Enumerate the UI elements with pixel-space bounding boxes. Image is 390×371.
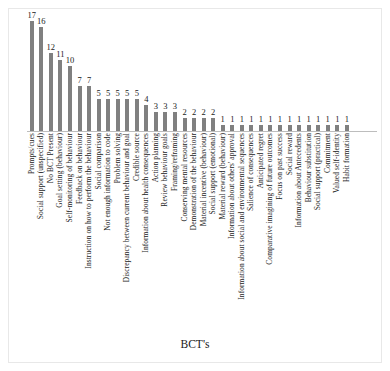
bar-item: 2 xyxy=(199,14,209,131)
x-tick-label: Social support (practical) xyxy=(314,133,322,210)
x-tick-label: Credible source xyxy=(133,133,141,181)
x-tick-label: Anticipated regret xyxy=(257,133,265,188)
bar-item: 7 xyxy=(75,14,85,131)
x-tick-slot: Valued self-identity xyxy=(333,133,343,323)
bar-value-label: 17 xyxy=(27,11,37,20)
bar-item: 1 xyxy=(285,14,295,131)
bar-rect xyxy=(173,112,177,132)
bar-value-label: 4 xyxy=(142,95,152,104)
bar-item: 1 xyxy=(323,14,333,131)
bar-item: 1 xyxy=(266,14,276,131)
bar-value-label: 1 xyxy=(313,115,323,124)
x-tick-label: Action planning xyxy=(152,133,160,182)
x-tick-label: Framing/reframing xyxy=(171,133,179,191)
bar-item: 1 xyxy=(313,14,323,131)
bar-value-label: 1 xyxy=(275,115,285,124)
bar-rect xyxy=(163,112,167,132)
bar-value-label: 1 xyxy=(227,115,237,124)
bar-item: 3 xyxy=(161,14,171,131)
x-tick-label: Not enough information to code xyxy=(104,133,112,231)
bar-value-label: 1 xyxy=(333,115,343,124)
bar-rect xyxy=(125,99,129,132)
x-tick-label: Information about others' approval xyxy=(228,133,236,239)
bar-value-label: 2 xyxy=(180,108,190,117)
bar-item: 2 xyxy=(208,14,218,131)
bar-rect xyxy=(58,60,62,132)
bar-value-label: 5 xyxy=(94,89,104,98)
bar-value-label: 1 xyxy=(323,115,333,124)
bar-value-label: 10 xyxy=(65,56,75,65)
bar-item: 5 xyxy=(103,14,113,131)
bar-rect xyxy=(144,105,148,131)
x-tick-slot: Focus on past success xyxy=(275,133,285,323)
bar-rect xyxy=(183,118,187,131)
bar-value-label: 11 xyxy=(56,50,66,59)
x-tick-label: Social comparison xyxy=(95,133,103,190)
bar-chart-figure: Frequency 171612111077555554333222211111… xyxy=(0,0,390,371)
bar-rect xyxy=(78,86,82,132)
x-tick-label: Behaviour substitution xyxy=(305,133,313,202)
bar-item: 1 xyxy=(227,14,237,131)
x-tick-label: Commitment xyxy=(324,133,332,173)
x-tick-slot: Information about Antecedents xyxy=(294,133,304,323)
bar-item: 3 xyxy=(151,14,161,131)
bar-item: 16 xyxy=(37,14,47,131)
bar-value-label: 1 xyxy=(237,115,247,124)
x-tick-label: Goal setting (behaviour) xyxy=(56,133,64,208)
bar-value-label: 3 xyxy=(170,102,180,111)
x-tick-label: Social reward xyxy=(286,133,294,175)
x-tick-label: Comparative imagining of future outcomes xyxy=(266,133,274,265)
bar-item: 1 xyxy=(275,14,285,131)
x-axis-title: BCT's xyxy=(0,338,390,350)
x-tick-slot: Not enough information to code xyxy=(103,133,113,323)
bar-item: 10 xyxy=(65,14,75,131)
bar-item: 11 xyxy=(56,14,66,131)
bar-rect xyxy=(192,118,196,131)
x-tick-slot: Review behaviour goals xyxy=(161,133,171,323)
bar-item: 5 xyxy=(122,14,132,131)
x-tick-label: Focus on past success xyxy=(276,133,284,200)
bar-item: 3 xyxy=(170,14,180,131)
x-tick-slot: Social comparison xyxy=(94,133,104,323)
bar-item: 5 xyxy=(113,14,123,131)
bar-value-label: 5 xyxy=(113,89,123,98)
bar-value-label: 2 xyxy=(189,108,199,117)
bar-item: 5 xyxy=(94,14,104,131)
plot-area: 171612111077555554333222211111111111111 xyxy=(27,14,377,131)
bar-value-label: 3 xyxy=(151,102,161,111)
bar-item: 2 xyxy=(189,14,199,131)
bar-rect xyxy=(106,99,110,132)
bar-value-label: 5 xyxy=(103,89,113,98)
bar-rect xyxy=(39,27,43,131)
x-tick-label: Demonstration of the behaviour xyxy=(190,133,198,230)
x-tick-label: Problem solving xyxy=(114,133,122,183)
x-tick-label: Social support (unspecified) xyxy=(37,133,45,219)
bar-item: 1 xyxy=(237,14,247,131)
bar-value-label: 12 xyxy=(46,43,56,52)
bar-series: 171612111077555554333222211111111111111 xyxy=(27,14,377,131)
x-tick-slot: Material incentive (behaviour) xyxy=(199,133,209,323)
x-tick-slot: Salience of consequences xyxy=(247,133,257,323)
x-tick-slot: Demonstration of the behaviour xyxy=(189,133,199,323)
x-tick-slot: Habit formation xyxy=(342,133,352,323)
x-tick-slot: Behaviour substitution xyxy=(304,133,314,323)
bar-value-label: 5 xyxy=(122,89,132,98)
x-tick-slot: Goal setting (behaviour) xyxy=(56,133,66,323)
x-tick-label: Information about health consequences xyxy=(142,133,150,253)
bar-item: 17 xyxy=(27,14,37,131)
x-tick-slot: Information about health consequences xyxy=(142,133,152,323)
bar-value-label: 1 xyxy=(256,115,266,124)
bar-value-label: 7 xyxy=(84,76,94,85)
x-axis-tick-labels: Prompts/cuesSocial support (unspecified)… xyxy=(27,133,377,323)
x-tick-label: Self-monitoring of behaviour xyxy=(66,133,74,222)
bar-value-label: 5 xyxy=(132,89,142,98)
x-tick-slot: Information about others' approval xyxy=(227,133,237,323)
bar-rect xyxy=(30,21,34,132)
bar-rect xyxy=(135,99,139,132)
bar-value-label: 1 xyxy=(266,115,276,124)
bar-item: 1 xyxy=(256,14,266,131)
x-tick-label: Information about Antecedents xyxy=(295,133,303,227)
x-tick-label: Material reward (behaviour) xyxy=(219,133,227,219)
x-tick-slot: Social support (emotional) xyxy=(208,133,218,323)
bar-rect xyxy=(97,99,101,132)
